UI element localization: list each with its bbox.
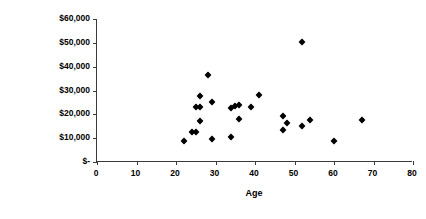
y-axis-tick-label: $10,000 bbox=[34, 133, 90, 142]
y-axis-tick-label: $40,000 bbox=[34, 62, 90, 71]
data-point bbox=[248, 104, 255, 111]
x-axis-tick-mark bbox=[255, 161, 256, 165]
y-axis-tick-labels: $-$10,000$20,000$30,000$40,000$50,000$60… bbox=[34, 0, 90, 219]
data-point bbox=[307, 117, 314, 124]
y-axis-tick-mark bbox=[93, 19, 97, 20]
x-axis-tick-mark bbox=[97, 161, 98, 165]
x-axis-tick-mark bbox=[216, 161, 217, 165]
data-point bbox=[279, 112, 286, 119]
data-point bbox=[236, 116, 243, 123]
y-axis-tick-label: $- bbox=[34, 157, 90, 166]
y-axis-tick-mark bbox=[93, 114, 97, 115]
x-axis-tick-label: 60 bbox=[318, 168, 348, 178]
x-axis-tick-label: 0 bbox=[81, 168, 111, 178]
y-axis-tick-label: $60,000 bbox=[34, 14, 90, 23]
y-axis-tick-mark bbox=[93, 91, 97, 92]
x-axis-tick-labels: 01020304050607080 bbox=[0, 168, 426, 180]
data-point bbox=[330, 137, 337, 144]
x-axis-tick-mark bbox=[334, 161, 335, 165]
data-point bbox=[196, 93, 203, 100]
x-axis-tick-label: 80 bbox=[397, 168, 426, 178]
y-axis-tick-mark bbox=[93, 67, 97, 68]
data-point bbox=[208, 99, 215, 106]
data-point bbox=[204, 71, 211, 78]
x-axis-tick-mark bbox=[137, 161, 138, 165]
y-axis-tick-label: $30,000 bbox=[34, 86, 90, 95]
x-axis-tick-mark bbox=[295, 161, 296, 165]
y-axis-tick-label: $50,000 bbox=[34, 38, 90, 47]
data-point bbox=[192, 129, 199, 136]
plot-area bbox=[96, 19, 412, 162]
data-point bbox=[255, 92, 262, 99]
data-point bbox=[299, 123, 306, 130]
data-point bbox=[283, 119, 290, 126]
x-axis-tick-label: 70 bbox=[358, 168, 388, 178]
x-axis-title-label: Age bbox=[245, 188, 262, 198]
x-axis-tick-label: 10 bbox=[121, 168, 151, 178]
x-axis-title: Age bbox=[96, 188, 412, 198]
x-axis-tick-mark bbox=[374, 161, 375, 165]
data-point bbox=[180, 137, 187, 144]
data-point bbox=[228, 133, 235, 140]
x-axis-tick-label: 50 bbox=[279, 168, 309, 178]
x-axis-tick-label: 20 bbox=[160, 168, 190, 178]
data-point bbox=[279, 126, 286, 133]
data-point bbox=[196, 104, 203, 111]
scatter-chart: Family Income $-$10,000$20,000$30,000$40… bbox=[0, 0, 426, 219]
data-point bbox=[358, 117, 365, 124]
data-point bbox=[208, 136, 215, 143]
y-axis-tick-label: $20,000 bbox=[34, 109, 90, 118]
x-axis-tick-label: 40 bbox=[239, 168, 269, 178]
data-point bbox=[196, 118, 203, 125]
x-axis-tick-mark bbox=[176, 161, 177, 165]
y-axis-tick-mark bbox=[93, 43, 97, 44]
y-axis-tick-mark bbox=[93, 138, 97, 139]
data-point bbox=[299, 38, 306, 45]
x-axis-tick-mark bbox=[413, 161, 414, 165]
x-axis-tick-label: 30 bbox=[200, 168, 230, 178]
